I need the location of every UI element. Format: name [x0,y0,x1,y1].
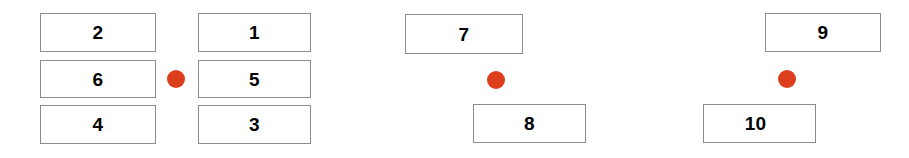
red-dot-marker-icon [778,70,796,88]
number-box-10[interactable]: 10 [703,104,816,143]
number-box-9[interactable]: 9 [765,13,881,52]
number-box-label: 10 [745,114,767,133]
diagram-canvas: 21654378910 [0,0,909,158]
number-box-label: 9 [818,23,829,42]
right-group: 910 [0,0,909,158]
